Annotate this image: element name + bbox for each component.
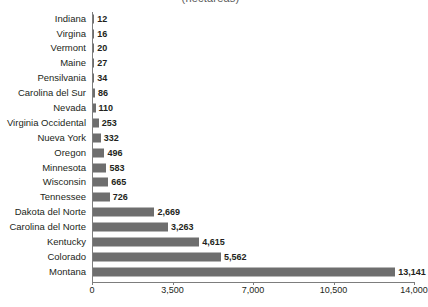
bar-value-label: 20 [97, 43, 107, 53]
bar [93, 104, 96, 113]
bar [93, 118, 99, 127]
category-label: Montana [0, 267, 86, 277]
category-label: Carolina del Sur [0, 88, 86, 98]
category-label: Nevada [0, 103, 86, 113]
bar-value-label: 34 [97, 73, 107, 83]
bar-value-label: 13,141 [398, 267, 426, 277]
table-row: Oregon496 [0, 146, 421, 159]
bar-value-label: 2,669 [157, 207, 180, 217]
category-label: Maine [0, 58, 86, 68]
x-tick-label: 3,500 [161, 285, 184, 295]
bar [93, 59, 94, 68]
table-row: Carolina del Norte3,263 [0, 220, 421, 233]
bar-value-label: 3,263 [171, 222, 194, 232]
bar [93, 89, 95, 98]
bar [93, 178, 108, 187]
bar [93, 163, 106, 172]
category-label: Kentucky [0, 237, 86, 247]
table-row: Montana13,141 [0, 265, 421, 278]
bar [93, 133, 101, 142]
bar-value-label: 110 [99, 103, 114, 113]
x-tick-label: 14,000 [400, 285, 428, 295]
bar-value-label: 253 [102, 118, 117, 128]
category-label: Colorado [0, 252, 86, 262]
bar-value-label: 583 [109, 163, 124, 173]
table-row: Vermont20 [0, 42, 421, 55]
category-label: Vermont [0, 43, 86, 53]
bar [93, 193, 110, 202]
table-row: Minnesota583 [0, 161, 421, 174]
bar-value-label: 12 [97, 14, 107, 24]
bar-value-label: 27 [97, 58, 107, 68]
category-label: Wisconsin [0, 177, 86, 187]
bar [93, 148, 104, 157]
category-label: Oregon [0, 148, 86, 158]
bar [93, 74, 94, 83]
table-row: Wisconsin665 [0, 176, 421, 189]
bar [93, 14, 94, 23]
bar [93, 267, 395, 276]
x-tick-label: 0 [89, 285, 94, 295]
bar [93, 44, 94, 53]
bar [93, 223, 168, 232]
table-row: Nevada110 [0, 101, 421, 114]
category-label: Virgina [0, 29, 86, 39]
bar-value-label: 4,615 [202, 237, 225, 247]
bar-value-label: 86 [98, 88, 108, 98]
table-row: Virginia Occidental253 [0, 116, 421, 129]
bar-value-label: 665 [111, 177, 126, 187]
table-row: Carolina del Sur86 [0, 86, 421, 99]
bar-value-label: 496 [107, 148, 122, 158]
category-label: Dakota del Norte [0, 207, 86, 217]
bar-value-label: 332 [104, 133, 119, 143]
category-label: Minnesota [0, 163, 86, 173]
bar-value-label: 5,562 [224, 252, 247, 262]
x-tick-label: 7,000 [242, 285, 265, 295]
bar [93, 29, 94, 38]
bar-value-label: 726 [113, 192, 128, 202]
category-label: Carolina del Norte [0, 222, 86, 232]
table-row: Indiana12 [0, 12, 421, 25]
category-label: Pensilvania [0, 73, 86, 83]
table-row: Colorado5,562 [0, 250, 421, 263]
table-row: Virgina16 [0, 27, 421, 40]
table-row: Tennessee726 [0, 191, 421, 204]
bar [93, 252, 221, 261]
bar [93, 208, 154, 217]
bar [93, 238, 199, 247]
table-row: Dakota del Norte2,669 [0, 206, 421, 219]
category-label: Nueva York [0, 133, 86, 143]
table-row: Pensilvania34 [0, 72, 421, 85]
category-label: Virginia Occidental [0, 118, 86, 128]
category-label: Tennessee [0, 192, 86, 202]
table-row: Kentucky4,615 [0, 235, 421, 248]
bar-value-label: 16 [97, 29, 107, 39]
x-tick-label: 10,500 [320, 285, 348, 295]
table-row: Nueva York332 [0, 131, 421, 144]
chart-title: (hectáreas) [0, 0, 421, 4]
table-row: Maine27 [0, 57, 421, 70]
category-label: Indiana [0, 14, 86, 24]
